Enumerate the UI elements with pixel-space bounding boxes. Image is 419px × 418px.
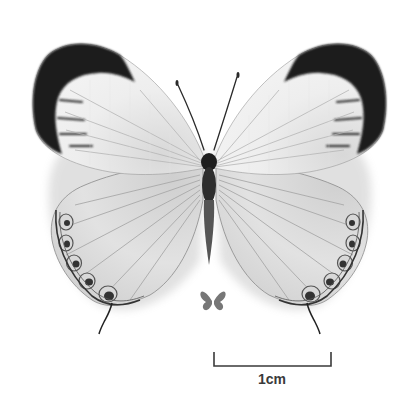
scale-bar-label: 1cm xyxy=(213,371,331,387)
left-forewing xyxy=(33,44,205,175)
butterfly-silhouette-icon xyxy=(200,291,225,310)
butterfly-specimen xyxy=(0,0,419,418)
right-tail xyxy=(307,303,320,334)
right-forewing xyxy=(214,44,386,175)
scale-bar xyxy=(214,352,331,366)
left-tail xyxy=(99,303,112,334)
